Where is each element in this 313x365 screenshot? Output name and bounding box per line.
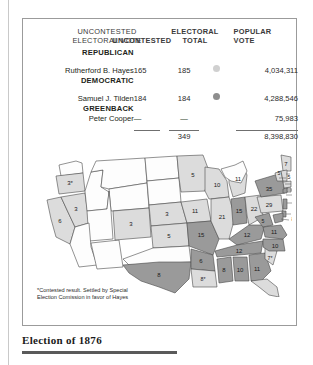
table-row: GREENBACK bbox=[23, 104, 298, 114]
legend-dot-democratic bbox=[213, 93, 220, 100]
header-popular-line1: POPULAR bbox=[234, 27, 298, 36]
state-fl bbox=[251, 279, 279, 297]
candidate-name-tilden: Samuel J. Tilden bbox=[23, 86, 134, 104]
electoral-total-cooper: — bbox=[160, 114, 207, 124]
legend-dot-republican bbox=[213, 65, 220, 72]
candidate-name-cooper: Peter Cooper bbox=[23, 114, 134, 124]
party-label-republican: REPUBLICAN bbox=[23, 48, 134, 58]
figure-caption-rule bbox=[22, 351, 177, 354]
us-electoral-map: 3* 6 3 3 3 5 8 5 11 15 6 8* 10 21 11 15 … bbox=[29, 147, 292, 297]
state-label-il: 21 bbox=[219, 214, 226, 220]
table-totals-row: 349 8,398,830 bbox=[23, 131, 298, 142]
state-label-mo: 15 bbox=[198, 232, 205, 238]
state-label-la: 8* bbox=[201, 276, 206, 282]
electoral-total-hayes: 185 bbox=[160, 58, 207, 76]
state-label-pa: 29 bbox=[266, 202, 273, 208]
state-nd bbox=[145, 156, 179, 181]
state-label-tn: 12 bbox=[236, 248, 243, 254]
state-label-in: 15 bbox=[236, 208, 243, 214]
state-label-oh: 22 bbox=[251, 206, 258, 212]
election-figure-box: UNCONTESTED ELECTORAL TOTAL POPULAR VOTE bbox=[22, 18, 297, 326]
uncontested-tilden: 184 bbox=[134, 86, 161, 104]
state-nj bbox=[283, 199, 287, 209]
popular-vote-cooper: 75,983 bbox=[226, 114, 298, 124]
state-label-sc: 7* bbox=[268, 255, 273, 261]
table-row: Peter Cooper — — 75,983 bbox=[23, 114, 298, 124]
state-label-wv: 5 bbox=[262, 218, 265, 224]
state-ct bbox=[283, 188, 287, 193]
total-electoral: 349 bbox=[160, 131, 207, 142]
state-label-nc: 10 bbox=[272, 243, 279, 249]
header-dot-spacer bbox=[219, 27, 234, 45]
state-label-al: 10 bbox=[237, 267, 244, 273]
header-unc-l1: UNCONTESTED bbox=[23, 27, 191, 36]
state-sd bbox=[147, 178, 181, 205]
total-popular: 8,398,830 bbox=[226, 131, 298, 142]
table-totals-rule-row bbox=[23, 124, 298, 131]
header-uncontested-block: UNCONTESTED ELECTORAL VOTE bbox=[23, 27, 191, 45]
page-left-rule bbox=[8, 0, 9, 365]
state-label-or: 3* bbox=[67, 180, 73, 186]
state-md bbox=[273, 213, 283, 223]
uncontested-hayes: 165 bbox=[134, 58, 161, 76]
state-label-wi: 10 bbox=[214, 182, 221, 188]
total-uncontested bbox=[134, 131, 161, 142]
state-label-ny: 35 bbox=[266, 186, 273, 192]
header-popular-vote: POPULAR VOTE bbox=[234, 27, 298, 45]
state-label-mi: 11 bbox=[235, 176, 242, 182]
electoral-total-tilden: 184 bbox=[160, 86, 207, 104]
uncontested-cooper: — bbox=[134, 114, 161, 124]
state-label-ia: 11 bbox=[192, 208, 199, 214]
state-label-va: 11 bbox=[271, 229, 278, 235]
candidate-name-hayes: Rutherford B. Hayes bbox=[23, 58, 134, 76]
figure-caption: Election of 1876 bbox=[22, 334, 297, 354]
party-label-greenback: GREENBACK bbox=[23, 104, 134, 114]
popular-vote-tilden: 4,288,546 bbox=[226, 86, 298, 104]
table-row: Samuel J. Tilden 184 184 4,288,546 bbox=[23, 86, 298, 104]
header-popular-line2: VOTE bbox=[234, 36, 298, 45]
popular-vote-hayes: 4,034,311 bbox=[226, 58, 298, 76]
state-ma bbox=[283, 181, 291, 188]
table-row: Rutherford B. Hayes 165 185 4,034,311 bbox=[23, 58, 298, 76]
us-map-svg: 3* 6 3 3 3 5 8 5 11 15 6 8* 10 21 11 15 … bbox=[29, 147, 292, 297]
party-label-democratic: DEMOCRATIC bbox=[23, 76, 134, 86]
table-row: REPUBLICAN bbox=[23, 48, 298, 58]
header-unc-l2: ELECTORAL VOTE bbox=[23, 36, 191, 45]
results-table-body: REPUBLICAN Rutherford B. Hayes 165 185 4… bbox=[23, 48, 298, 142]
state-label-vt: 5 bbox=[288, 174, 291, 180]
results-table-wrapper: UNCONTESTED ELECTORAL TOTAL POPULAR VOTE bbox=[23, 27, 298, 142]
table-row: DEMOCRATIC bbox=[23, 76, 298, 86]
map-footnote: *Contested result. Settled by Special El… bbox=[37, 287, 133, 301]
state-label-ga: 11 bbox=[254, 266, 261, 272]
figure-caption-text: Election of 1876 bbox=[22, 334, 297, 346]
state-label-nh: 5 bbox=[278, 170, 281, 176]
state-label-ky: 12 bbox=[244, 232, 251, 238]
state-nm bbox=[91, 240, 123, 269]
